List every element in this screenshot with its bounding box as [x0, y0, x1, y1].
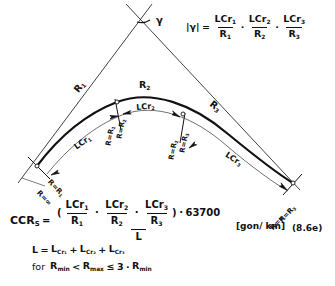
- length-sum-plus-2: +: [96, 245, 109, 255]
- gamma-term-1-num: LCr1: [212, 14, 238, 27]
- condition-rmax: Rmax: [83, 261, 104, 273]
- condition-le: ≤: [104, 262, 117, 272]
- gamma-formula-lhs: |γ|: [186, 22, 199, 32]
- condition-rmin2: Rmin: [132, 261, 152, 273]
- condition-line: for Rmin < Rmax ≤ 3 · Rmin: [32, 261, 152, 273]
- gamma-formula: |γ| = LCr1 R1 · LCr2 R2 · LCr3 R3: [186, 14, 307, 40]
- ccrs-constant: 63700: [185, 208, 220, 218]
- length-sum-term-1: LCr₁: [51, 244, 67, 256]
- gamma-term-3-num: LCr3: [281, 14, 307, 27]
- condition-lt: <: [70, 262, 83, 272]
- gamma-plus-1: ·: [238, 22, 247, 32]
- radius-label-r2: R2: [139, 80, 150, 92]
- gamma-plus-2: ·: [273, 22, 282, 32]
- apex-angle-label: γ: [156, 16, 163, 26]
- length-sum-formula: L = LCr₁ + LCr₂ + LCr₃: [32, 244, 125, 256]
- gamma-term-2-den: R2: [252, 27, 267, 41]
- arrow-lcr2-right: [172, 111, 180, 117]
- ccrs-term-1: LCr1 R1: [62, 200, 93, 227]
- ccrs-term-1-num: LCr1: [62, 200, 93, 213]
- gamma-term-2: LCr2 R2: [247, 14, 273, 40]
- length-sum-term-3: LCr₃: [109, 244, 125, 256]
- ccrs-term-2: LCr2 R2: [101, 200, 132, 227]
- tick-start: [28, 157, 50, 179]
- ccrs-numerator: ( LCr1 R1 · LCr2 R2 · LCr3 R3 ) · 63700: [53, 200, 224, 229]
- length-sum-equals: =: [38, 245, 51, 255]
- gamma-formula-equals: =: [199, 22, 212, 32]
- ccrs-term-1-den: R1: [67, 213, 87, 227]
- unit-label: [gon/ km]: [236, 222, 285, 231]
- gamma-term-1-den: R1: [218, 27, 233, 41]
- condition-rmin: Rmin: [50, 261, 70, 273]
- leader-start-outer: [22, 178, 45, 186]
- ccrs-term-3: LCr3 R3: [141, 200, 172, 227]
- arc-length-label-lcr2: LCr2: [136, 102, 155, 112]
- length-sum-term-2: LCr₂: [80, 244, 96, 256]
- ccrs-formula: CCRS = ( LCr1 R1 · LCr2 R2 · LCr3 R3: [10, 200, 224, 242]
- gamma-term-3: LCr3 R3: [281, 14, 307, 40]
- condition-factor: 3: [117, 262, 124, 272]
- ccrs-equals: =: [40, 216, 53, 226]
- tangent-line-left: [18, 4, 152, 183]
- figure-canvas: γ R1 R2 R3 LCr1 LCr2 LCr3 R=R1 R=∞ R=R2 …: [0, 0, 335, 286]
- ccrs-plus-1: ·: [92, 208, 101, 218]
- arrow-lcr3-right: [280, 183, 288, 190]
- tangent-point-start: [35, 164, 39, 168]
- length-sum-plus-1: +: [67, 245, 80, 255]
- arrow-lcr3-left: [189, 142, 197, 148]
- condition-multiply: ·: [124, 262, 133, 272]
- tangent-point-1: [115, 100, 119, 104]
- ccrs-lhs: CCRS: [10, 215, 40, 228]
- ccrs-fraction: ( LCr1 R1 · LCr2 R2 · LCr3 R3 ) · 63700: [53, 200, 224, 242]
- ccrs-term-2-den: R2: [107, 213, 127, 227]
- gamma-term-2-num: LCr2: [247, 14, 273, 27]
- ccrs-denominator: L: [131, 229, 145, 242]
- ccrs-term-3-num: LCr3: [141, 200, 172, 213]
- gamma-term-3-den: R3: [286, 27, 301, 41]
- ccrs-term-2-num: LCr2: [101, 200, 132, 213]
- gamma-term-1: LCr1 R1: [212, 14, 238, 40]
- tangent-point-2: [181, 112, 185, 116]
- condition-prefix: for: [32, 262, 45, 272]
- equation-number: (8.6e): [292, 224, 322, 233]
- tangent-point-end: [291, 181, 295, 185]
- ccrs-multiply: ·: [177, 208, 186, 218]
- arrow-lcr1-left: [51, 170, 59, 175]
- compound-curve: [37, 97, 293, 183]
- ccrs-term-3-den: R3: [147, 213, 167, 227]
- ccrs-plus-2: ·: [132, 208, 141, 218]
